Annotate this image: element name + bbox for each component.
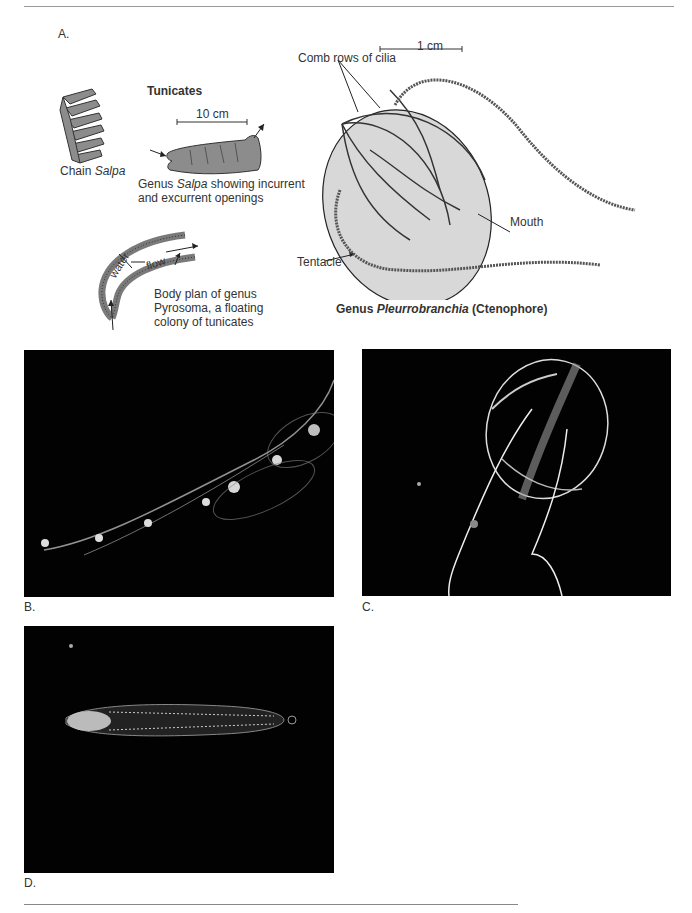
- tunicates-heading: Tunicates: [147, 84, 202, 98]
- panel-c-letter: C.: [362, 600, 374, 614]
- panel-d-letter: D.: [24, 876, 36, 890]
- salpa-chain-glow: [24, 350, 334, 597]
- panel-b-letter: B.: [24, 600, 35, 614]
- comb-rows-label: Comb rows of cilia: [298, 51, 396, 65]
- pyrosoma-caption-line2: Pyrosoma, a floating: [154, 301, 263, 315]
- scale-1cm-label: 1 cm: [417, 39, 443, 53]
- pyrosoma-caption-line1: Body plan of genus: [154, 287, 257, 301]
- photo-c-ctenophore: [362, 349, 671, 596]
- ctenophore-caption: Genus Pleurrobranchia (Ctenophore): [336, 302, 547, 316]
- mouth-label: Mouth: [510, 215, 543, 229]
- photo-d-beroe: [24, 626, 334, 873]
- photo-b-salpa-chain: [24, 350, 334, 597]
- chain-salpa-label: Chain Salpa: [60, 164, 125, 178]
- salpa-caption-line2: and excurrent openings: [138, 191, 263, 205]
- bottom-rule: [24, 904, 518, 905]
- ctenophore-glow: [362, 349, 671, 596]
- tentacle-label: Tentacle: [297, 255, 342, 269]
- salpa-drawing: [150, 119, 264, 174]
- scale-10cm-label: 10 cm: [196, 107, 229, 121]
- chain-salpa-drawing: [60, 89, 104, 163]
- beroe-glow: [24, 626, 334, 873]
- pyrosoma-caption-line3: colony of tunicates: [154, 315, 253, 329]
